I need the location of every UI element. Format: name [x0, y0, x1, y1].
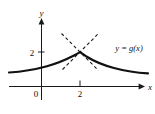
x-tick-label-2: 2 — [78, 89, 83, 99]
graph-canvas: y x 0 2 2 y = g(x) — [0, 0, 155, 114]
graph-figure: y x 0 2 2 y = g(x) — [0, 0, 155, 114]
function-label: y = g(x) — [114, 43, 143, 53]
y-axis-label: y — [39, 8, 44, 18]
y-tick-label-2: 2 — [30, 48, 35, 58]
y-axis-arrowhead — [39, 18, 45, 25]
origin-label: 0 — [34, 89, 39, 99]
x-axis-label: x — [147, 82, 152, 92]
x-axis-arrowhead — [139, 84, 145, 90]
